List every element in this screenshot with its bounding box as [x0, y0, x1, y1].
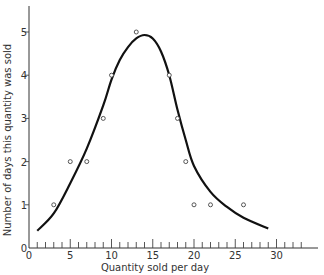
tick-marks — [25, 32, 301, 248]
y-tick-label: 0 — [21, 243, 27, 254]
data-point — [52, 203, 56, 207]
y-tick-label: 2 — [21, 157, 27, 168]
data-point — [101, 116, 105, 120]
data-point — [184, 160, 188, 164]
x-tick-label: 30 — [270, 250, 283, 261]
data-point — [85, 160, 89, 164]
data-point — [176, 116, 180, 120]
x-tick-label: 25 — [229, 250, 242, 261]
data-point — [110, 73, 114, 77]
y-tick-label: 1 — [21, 200, 27, 211]
axes — [29, 6, 318, 248]
data-point — [68, 160, 72, 164]
x-tick-label: 5 — [67, 250, 73, 261]
data-point — [242, 203, 246, 207]
y-tick-label: 4 — [21, 70, 27, 81]
fitted-curve — [37, 35, 268, 231]
data-point — [192, 203, 196, 207]
x-tick-label: 20 — [188, 250, 201, 261]
y-axis-label: Number of days this quantity was sold — [2, 44, 13, 236]
data-point — [167, 73, 171, 77]
x-tick-label: 15 — [146, 250, 159, 261]
data-point — [209, 203, 213, 207]
data-point — [134, 30, 138, 34]
x-axis-label: Quantity sold per day — [101, 262, 209, 273]
data-points — [52, 30, 246, 207]
y-tick-label: 5 — [21, 27, 27, 38]
x-tick-label: 10 — [105, 250, 118, 261]
tick-labels: 051015202530012345 — [21, 27, 283, 261]
bell-curve-chart: 051015202530012345 Quantity sold per day… — [0, 0, 324, 275]
y-tick-label: 3 — [21, 113, 27, 124]
